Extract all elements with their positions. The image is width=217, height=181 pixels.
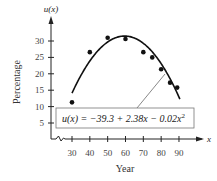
data-point [150,55,155,60]
y-tick-label: 10 [35,102,45,112]
y-tick-label: 25 [35,52,45,62]
y-tick-label: 5 [40,118,45,128]
equation-text: u(x) = −39.3 + 2.38x − 0.02x2 [62,112,185,125]
y-axis-arrow-icon [49,16,54,24]
data-point [168,80,173,85]
data-point [159,67,164,72]
quadratic-fit-chart: u(x) Percentage Year x 51015202530304050… [0,0,217,181]
x-tick-label: 60 [121,148,131,158]
y-tick-label: 20 [35,69,45,79]
x-tick-label: 80 [157,148,167,158]
data-point [88,50,93,55]
data-point [141,50,146,55]
x-tick-label: 30 [68,148,78,158]
data-points [70,35,180,104]
fit-curve [72,36,180,99]
x-tick-label: 40 [85,148,95,158]
data-point [70,100,75,105]
leader-line [137,74,165,108]
x-axis-title: Year [116,163,135,174]
y-tick-label: 15 [35,85,45,95]
ticks: 5101520253030405060708090 [35,36,184,158]
data-point [123,37,128,42]
x-tick-label: 50 [103,148,113,158]
x-tick-label: 90 [174,148,184,158]
data-point [105,35,110,40]
y-axis-function-label: u(x) [44,4,59,14]
y-axis-title: Percentage [11,60,22,104]
x-tick-label: 70 [139,148,149,158]
fit-curve-path [72,36,180,99]
y-tick-label: 30 [35,36,45,46]
data-point [175,85,180,90]
x-axis-arrow-icon [196,137,204,142]
x-axis-variable-label: x [206,134,211,144]
